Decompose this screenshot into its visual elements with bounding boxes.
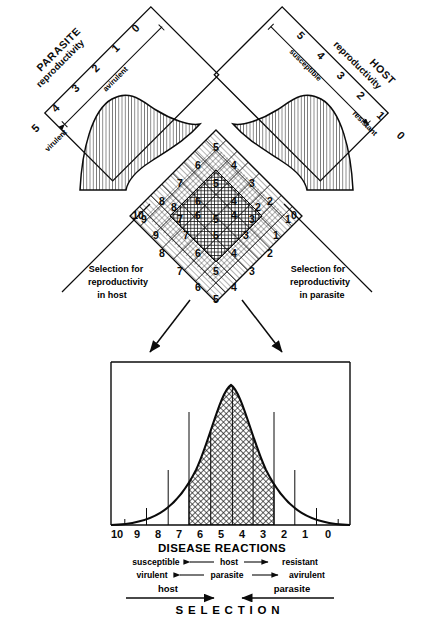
lattice-to-distribution-arrows [150, 300, 282, 352]
figure-canvas: PARASITE reproductivity 5 4 3 2 1 0 viru… [0, 0, 433, 619]
host-tick-5: 5 [295, 29, 308, 42]
distribution-parasite-scale: virulent parasite avirulent [136, 570, 325, 580]
selection-arrow-parasite-label: parasite [274, 583, 310, 594]
arrow-down-left [150, 300, 190, 352]
lattice-mid-10: 10 [132, 209, 144, 221]
lattice-cell-9-0: 6 [195, 281, 201, 293]
lattice-cell-3-1: 6 [195, 195, 201, 207]
lattice-mid-6: 6 [195, 209, 201, 221]
distribution-host-scale: susceptible host resistant [132, 557, 318, 567]
selection-right-line2: reproductivity [290, 277, 350, 287]
lattice-cell-7-0: 8 [159, 247, 165, 259]
dist-tick-8: 8 [155, 528, 161, 540]
parasite-tick-2: 2 [89, 62, 102, 75]
lattice-cell-6-1: 7 [183, 229, 189, 241]
lattice-cell-2-1: 5 [213, 177, 219, 189]
parasite-virulent-label: virulent [43, 127, 69, 153]
dist-tick-5: 5 [218, 528, 224, 540]
selection-title: S E L E C T I O N [176, 604, 281, 616]
lattice-cell-4-1: 7 [177, 213, 183, 225]
lattice-cell-3-2: 4 [231, 195, 237, 207]
distribution-tick-labels: 10 9 8 7 6 5 4 3 2 1 0 [111, 528, 331, 540]
selection-left-line3: in host [97, 290, 127, 300]
lattice-mid-2: 2 [255, 201, 261, 213]
distribution-axis-title: DISEASE REACTIONS [158, 542, 286, 554]
dist-tick-7: 7 [176, 528, 182, 540]
host-resistant-label: resistant [351, 109, 380, 138]
lattice-cell-4-3: 3 [249, 213, 255, 225]
host-scale-right: resistant [282, 557, 318, 567]
parasite-scale-middle: parasite [211, 570, 244, 580]
lattice-cell-9-1: 4 [231, 281, 237, 293]
selection-left-line1: Selection for [89, 264, 144, 274]
host-tick-0: 0 [395, 129, 408, 142]
host-tick-3: 3 [335, 69, 348, 82]
host-parasite-diagram: PARASITE reproductivity 5 4 3 2 1 0 viru… [0, 0, 433, 619]
lattice-cell-1-0: 6 [195, 159, 201, 171]
lattice-cell-7-3: 2 [267, 247, 273, 259]
host-tick-2: 2 [355, 89, 368, 102]
lattice-cell-10-0: 5 [213, 293, 219, 305]
host-scale-middle: host [220, 557, 238, 567]
lattice-cell-1-1: 4 [231, 159, 237, 171]
lattice-cell-6-0: 9 [153, 229, 159, 241]
lattice-mid-4: 4 [231, 209, 237, 221]
dist-tick-1: 1 [302, 528, 308, 540]
parasite-tick-1: 1 [109, 42, 122, 55]
selection-arrows: host parasite S E L E C T I O N [126, 583, 334, 616]
host-tick-4: 4 [315, 49, 328, 62]
lattice-cell-7-2: 4 [231, 247, 237, 259]
lattice-mid-8: 8 [171, 201, 177, 213]
lattice-cell-2-2: 3 [249, 177, 255, 189]
lattice-cell-0-0: 5 [213, 141, 219, 153]
dist-tick-10: 10 [111, 528, 123, 540]
dist-tick-0: 0 [325, 528, 331, 540]
parasite-tick-5: 5 [29, 122, 42, 135]
selection-for-host-caption: Selection for reproductivity in host [88, 264, 148, 300]
dist-tick-9: 9 [134, 528, 140, 540]
dist-tick-3: 3 [260, 528, 266, 540]
lattice-cell-6-2: 5 [213, 229, 219, 241]
lattice-cell-8-2: 3 [249, 265, 255, 277]
selection-arrow-host-label: host [158, 583, 179, 594]
parasite-scale-right: avirulent [289, 570, 325, 580]
lattice-cell-8-1: 5 [213, 265, 219, 277]
parasite-tick-3: 3 [69, 82, 82, 95]
dist-tick-4: 4 [239, 528, 246, 540]
dist-tick-6: 6 [197, 528, 203, 540]
selection-left-line2: reproductivity [88, 277, 148, 287]
host-susceptible-label: susceptible [288, 47, 324, 83]
arrow-down-right [242, 300, 282, 352]
parasite-scale-left: virulent [136, 570, 167, 580]
selection-for-parasite-caption: Selection for reproductivity in parasite [290, 264, 350, 300]
host-scale-left: susceptible [132, 557, 180, 567]
parasite-tick-0: 0 [129, 22, 142, 35]
dist-tick-2: 2 [281, 528, 287, 540]
distribution-panel: 10 9 8 7 6 5 4 3 2 1 0 DISEASE REACTIONS… [111, 362, 350, 616]
lattice-cell-2-0: 7 [177, 177, 183, 189]
lattice-cell-8-0: 7 [177, 265, 183, 277]
lattice-cell-6-3: 3 [243, 229, 249, 241]
selection-right-line3: in parasite [299, 290, 344, 300]
lattice-cell-7-1: 6 [195, 247, 201, 259]
lattice-cell-6-4: 1 [273, 229, 279, 241]
lattice-cell-4-2: 5 [213, 213, 219, 225]
lattice-cell-3-3: 2 [267, 195, 273, 207]
parasite-avirulent-label: avirulent [101, 64, 130, 93]
selection-right-line1: Selection for [291, 264, 346, 274]
lattice-cell-3-0: 8 [159, 195, 165, 207]
